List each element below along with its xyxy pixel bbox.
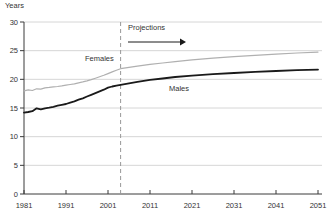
chart-plot: 0510152025301981199120012011202120312041… (0, 0, 330, 220)
x-tick-label: 1991 (58, 201, 75, 210)
life-expectancy-chart: Years 0510152025301981199120012011202120… (0, 0, 330, 220)
males-series-label: Males (169, 84, 189, 93)
x-tick-label: 2021 (184, 201, 201, 210)
x-tick-label: 2001 (100, 201, 117, 210)
y-tick-label: 30 (10, 18, 18, 27)
y-tick-label: 5 (14, 161, 18, 170)
y-tick-label: 25 (10, 46, 18, 55)
x-tick-label: 2031 (226, 201, 243, 210)
x-tick-label: 2051 (310, 201, 327, 210)
x-tick-label: 2041 (268, 201, 285, 210)
x-tick-label: 2011 (142, 201, 158, 210)
projections-label: Projections (128, 23, 165, 32)
y-tick-label: 15 (10, 104, 18, 113)
projections-arrow-icon (127, 37, 191, 47)
y-tick-label: 20 (10, 75, 18, 84)
y-tick-label: 10 (10, 132, 18, 141)
females-series-label: Females (85, 54, 114, 63)
y-tick-label: 0 (14, 190, 18, 199)
x-tick-label: 1981 (16, 201, 33, 210)
